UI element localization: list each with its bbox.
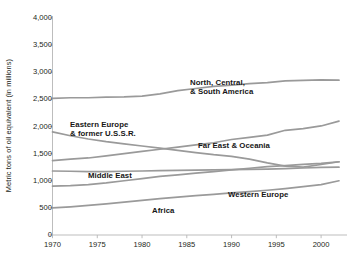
series-label: Far East & Oceania (198, 141, 270, 150)
series-label: Africa (152, 206, 174, 215)
x-axis-tick-label: 2000 (313, 240, 330, 249)
series-label: North, Central, & South America (190, 78, 253, 96)
series-label: Eastern Europe & former U.S.S.R. (70, 120, 136, 138)
series-label: Western Europe (228, 190, 288, 199)
x-axis-tick-label: 1975 (89, 240, 106, 249)
series-label: Middle East (88, 171, 132, 180)
x-axis-tick-label: 1980 (134, 240, 151, 249)
x-axis-tick-labels: 1970197519801985199019952000 (0, 0, 350, 270)
line-chart: Metric tons of oil equivalent (in millio… (0, 0, 350, 270)
x-axis-tick-label: 1990 (223, 240, 240, 249)
x-axis-tick-label: 1995 (268, 240, 285, 249)
x-axis-tick-label: 1985 (178, 240, 195, 249)
x-axis-tick-label: 1970 (44, 240, 61, 249)
